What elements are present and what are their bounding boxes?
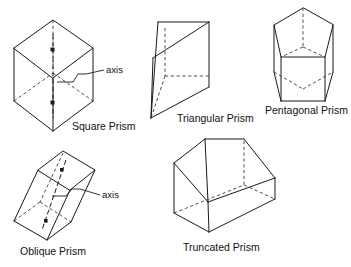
triangular-prism-label: Triangular Prism (177, 112, 254, 124)
truncated-prism-bottom-left-edge (174, 213, 209, 232)
pentagonal-prism-hidden-center-left (281, 47, 303, 57)
shape-square-prism: axis Square Prism (14, 20, 136, 132)
oblique-prism-right-edge (71, 170, 95, 222)
oblique-prism-label: Oblique Prism (20, 245, 86, 257)
pentagonal-prism-hidden-center-right (303, 47, 325, 57)
pentagonal-prism-top-face (274, 8, 333, 57)
shape-triangular-prism: Triangular Prism (151, 22, 254, 124)
square-prism-label: Square Prism (72, 120, 136, 132)
pentagonal-prism-hidden-bottom-left (274, 72, 303, 89)
truncated-prism-upper-right-edge (244, 139, 275, 178)
oblique-prism-bottom-left-edge (14, 221, 47, 240)
pentagonal-prism-bottom-right-edge (325, 72, 333, 101)
oblique-prism-hidden-bottom-left (14, 202, 40, 221)
truncated-prism-slope-front-edge (205, 139, 208, 202)
oblique-prism-axis-callout: axis (102, 189, 119, 200)
truncated-prism-label: Truncated Prism (183, 241, 260, 253)
square-prism-bottom-back-left-edge (14, 73, 53, 101)
truncated-prism-inner-slope-left-edge (174, 163, 208, 202)
square-prism-bottom-left-edge (14, 101, 53, 131)
truncated-prism-bottom-right-edge (209, 199, 275, 232)
shape-pentagonal-prism: Pentagonal Prism (265, 8, 348, 116)
triangular-prism-diagonal-edge (153, 22, 209, 58)
triangular-prism-left-edge (151, 22, 158, 118)
square-prism-bottom-back-right-edge (53, 73, 93, 101)
truncated-prism-upper-left-edge (174, 139, 205, 163)
oblique-prism-axis-top-tick (60, 168, 64, 172)
square-prism-axis-callout: axis (106, 64, 123, 75)
truncated-prism-front-vertical-edge (208, 202, 209, 232)
shape-oblique-prism: axis Oblique Prism (14, 151, 119, 257)
oblique-prism-axis-bottom-tick (44, 219, 48, 223)
prism-types-diagram: axis Square Prism Triangular Prism (0, 0, 351, 267)
oblique-prism-front-edge (47, 190, 70, 240)
oblique-prism-axis-leader (52, 189, 100, 196)
square-prism-axis-bottom-tick (51, 101, 55, 105)
shape-truncated-prism: Truncated Prism (174, 139, 275, 253)
pentagonal-prism-label: Pentagonal Prism (265, 104, 348, 116)
oblique-prism-top-face (38, 151, 95, 190)
square-prism-axis-top-tick (51, 48, 55, 52)
pentagonal-prism-bottom-left-edge (274, 72, 281, 101)
oblique-prism-left-edge (14, 170, 38, 221)
truncated-prism-hidden-back-left-edge (174, 185, 244, 213)
truncated-prism-inner-bottom-edge (208, 178, 275, 202)
